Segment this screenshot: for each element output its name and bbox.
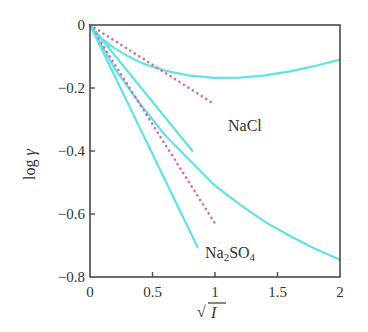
x-tick-label: 1 <box>211 284 219 300</box>
y-axis-label: logγ <box>21 149 39 180</box>
x-tick-label: 0.5 <box>143 284 162 300</box>
x-axis-label: √ I <box>197 303 226 321</box>
series-layer <box>90 25 340 260</box>
y-tick-label: −0.4 <box>58 143 86 159</box>
annotation-nacl: NaCl <box>228 117 262 134</box>
series-line-3 <box>90 25 340 260</box>
x-tick-label: 2 <box>336 284 344 300</box>
y-tick-label: −0.8 <box>58 269 85 285</box>
x-tick-label: 0 <box>86 284 94 300</box>
chart: 00.511.52 0−0.2−0.4−0.6−0.8 NaCl Na2SO4 … <box>0 0 368 332</box>
svg-text:I: I <box>210 304 217 321</box>
series-line-4 <box>90 25 215 223</box>
y-tick-label: −0.2 <box>58 80 85 96</box>
svg-text:√: √ <box>197 303 206 320</box>
plot-frame <box>90 25 340 277</box>
annotation-na2so4: Na2SO4 <box>205 244 256 263</box>
y-tick-label: 0 <box>78 17 86 33</box>
y-tick-label: −0.6 <box>58 206 86 222</box>
x-tick-label: 1.5 <box>268 284 287 300</box>
